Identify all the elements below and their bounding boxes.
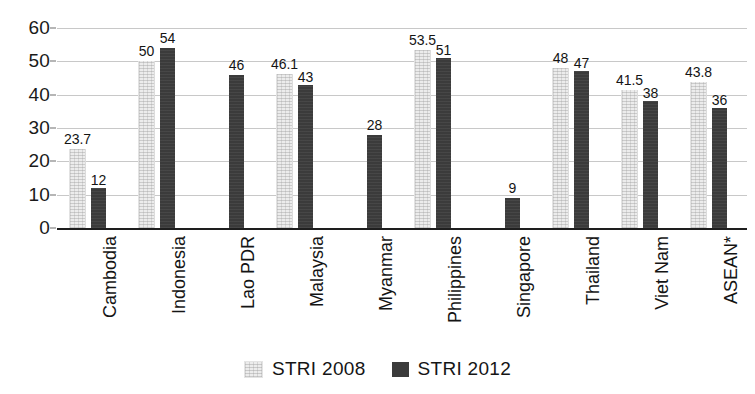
bar-stri-2012[interactable]: 36 bbox=[712, 108, 727, 228]
bar-stri-2008[interactable]: 41.5 bbox=[621, 90, 638, 228]
legend-swatch-2012-icon bbox=[392, 362, 409, 377]
bar-group: 53.551 bbox=[402, 28, 471, 228]
bar-stri-2008[interactable]: 53.5 bbox=[414, 50, 431, 228]
y-axis-tick-label: 40 bbox=[28, 84, 50, 106]
x-axis-category-label: Indonesia bbox=[170, 236, 188, 314]
bar-value-label: 46 bbox=[229, 58, 245, 72]
bar-group: 46 bbox=[195, 28, 264, 228]
plot-area: 0102030405060 23.71250544646.1432853.551… bbox=[57, 28, 747, 228]
bar-value-label: 9 bbox=[509, 181, 517, 195]
x-axis-category-label: Lao PDR bbox=[239, 236, 257, 309]
bar-value-label: 50 bbox=[139, 44, 155, 58]
x-axis-category-label: ASEAN* bbox=[722, 236, 740, 304]
bar-value-label: 43 bbox=[298, 70, 314, 84]
y-axis-tick-mark bbox=[50, 194, 56, 195]
bar-value-label: 12 bbox=[91, 173, 107, 187]
bar-value-label: 41.5 bbox=[616, 73, 643, 87]
y-axis-tick-mark bbox=[50, 161, 56, 162]
legend-item-stri-2008[interactable]: STRI 2008 bbox=[244, 358, 366, 380]
x-axis-category-label: Singapore bbox=[515, 236, 533, 318]
bar-value-label: 28 bbox=[367, 118, 383, 132]
y-axis-tick-mark bbox=[50, 228, 56, 229]
y-axis-tick-label: 30 bbox=[28, 117, 50, 139]
bar-stri-2008[interactable]: 48 bbox=[552, 68, 569, 228]
y-axis-tick-mark bbox=[50, 28, 56, 29]
bar-value-label: 46.1 bbox=[271, 57, 298, 71]
bar-stri-2012[interactable]: 9 bbox=[505, 198, 520, 228]
axis-baseline bbox=[57, 228, 747, 230]
y-axis-tick-label: 50 bbox=[28, 50, 50, 72]
bar-stri-2012[interactable]: 28 bbox=[367, 135, 382, 228]
bar-value-label: 36 bbox=[712, 93, 728, 107]
bar-stri-2012[interactable]: 12 bbox=[91, 188, 106, 228]
y-axis-tick-label: 0 bbox=[39, 217, 50, 239]
bar-group: 46.143 bbox=[264, 28, 333, 228]
bar-value-label: 38 bbox=[643, 86, 659, 100]
bar-group: 23.712 bbox=[57, 28, 126, 228]
x-axis-category-label: Cambodia bbox=[101, 236, 119, 318]
bar-group: 5054 bbox=[126, 28, 195, 228]
bar-stri-2008[interactable]: 23.7 bbox=[69, 149, 86, 228]
bar-value-label: 48 bbox=[553, 51, 569, 65]
bar-value-label: 54 bbox=[160, 31, 176, 45]
y-axis-tick-mark bbox=[50, 94, 56, 95]
y-axis-tick-label: 20 bbox=[28, 150, 50, 172]
legend-swatch-2008-icon bbox=[244, 361, 263, 378]
y-axis-tick-mark bbox=[50, 61, 56, 62]
bar-stri-2008[interactable]: 43.8 bbox=[690, 82, 707, 228]
legend-label-2008: STRI 2008 bbox=[272, 358, 366, 380]
bar-group: 9 bbox=[471, 28, 540, 228]
x-axis-category-label: Thailand bbox=[584, 236, 602, 305]
bar-stri-2012[interactable]: 54 bbox=[160, 48, 175, 228]
legend-label-2012: STRI 2012 bbox=[418, 358, 512, 380]
x-axis-category-label: Philippines bbox=[446, 236, 464, 323]
bar-stri-2012[interactable]: 51 bbox=[436, 58, 451, 228]
bar-stri-2012[interactable]: 43 bbox=[298, 85, 313, 228]
bar-chart: 0102030405060 23.71250544646.1432853.551… bbox=[0, 0, 755, 394]
bar-stri-2012[interactable]: 47 bbox=[574, 71, 589, 228]
bar-group: 41.538 bbox=[609, 28, 678, 228]
bar-stri-2008[interactable]: 50 bbox=[138, 61, 155, 228]
chart-legend: STRI 2008 STRI 2012 bbox=[0, 358, 755, 380]
bar-value-label: 51 bbox=[436, 43, 452, 57]
y-axis-tick-label: 60 bbox=[28, 17, 50, 39]
bar-value-label: 23.7 bbox=[64, 132, 91, 146]
bar-stri-2008[interactable]: 46.1 bbox=[276, 74, 293, 228]
bar-group: 43.836 bbox=[678, 28, 747, 228]
x-axis-category-label: Malaysia bbox=[308, 236, 326, 307]
bar-stri-2012[interactable]: 38 bbox=[643, 101, 658, 228]
bar-value-label: 53.5 bbox=[409, 33, 436, 47]
y-axis-tick-mark bbox=[50, 128, 56, 129]
legend-item-stri-2012[interactable]: STRI 2012 bbox=[392, 358, 512, 380]
bar-value-label: 43.8 bbox=[685, 65, 712, 79]
bar-value-label: 47 bbox=[574, 56, 590, 70]
bar-group: 4847 bbox=[540, 28, 609, 228]
x-axis-category-label: Myanmar bbox=[377, 236, 395, 311]
bar-stri-2012[interactable]: 46 bbox=[229, 75, 244, 228]
bar-group: 28 bbox=[333, 28, 402, 228]
x-axis-category-label: Viet Nam bbox=[653, 236, 671, 310]
y-axis-tick-label: 10 bbox=[28, 184, 50, 206]
